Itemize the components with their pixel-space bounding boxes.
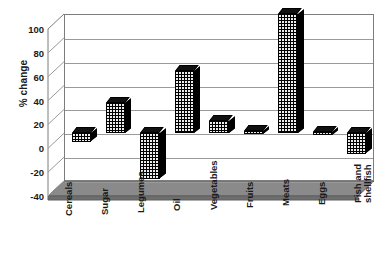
y-axis-tick-label: 20 — [10, 119, 44, 130]
bar-front-face — [209, 121, 228, 133]
bar-series — [64, 14, 374, 181]
x-axis-tick-label: Meats — [281, 179, 291, 206]
bar[interactable] — [313, 132, 332, 135]
bar[interactable] — [244, 131, 263, 134]
x-axis-tick-label: Sugar — [100, 188, 110, 215]
bar-slot — [133, 14, 167, 181]
bar[interactable] — [347, 133, 366, 153]
bar-slot — [236, 14, 270, 181]
bar-slot — [305, 14, 339, 181]
x-axis-tick-labels: CerealsSugarLegumesOilVegetablesFruitsMe… — [48, 200, 378, 275]
bar-front-face — [106, 103, 125, 133]
bar-side-face — [366, 129, 372, 154]
x-axis-tick-label: Fish and shellfish — [353, 164, 373, 203]
bar-slot — [167, 14, 201, 181]
bar[interactable] — [278, 14, 297, 133]
bar[interactable] — [175, 71, 194, 133]
bar-front-face — [72, 133, 91, 141]
bar-slot — [271, 14, 305, 181]
y-axis-tick-labels: 100806040200-20-40 — [0, 14, 44, 196]
bar-front-face — [278, 14, 297, 133]
x-axis-tick-label: Fruits — [245, 181, 255, 207]
bar-side-face — [160, 129, 166, 179]
y-axis-tick-label: 60 — [10, 71, 44, 82]
bar-front-face — [313, 132, 332, 135]
y-axis-tick-label: -20 — [10, 167, 44, 178]
y-axis-tick-label: 100 — [10, 24, 44, 35]
x-axis-tick-label: Oil — [172, 198, 182, 211]
bar[interactable] — [209, 121, 228, 133]
y-axis-tick-label: -40 — [10, 191, 44, 202]
bar-front-face — [347, 133, 366, 153]
bar-front-face — [244, 131, 263, 134]
y-axis-tick-label: 40 — [10, 95, 44, 106]
bar-side-face — [125, 99, 131, 134]
x-axis-tick-label: Legumes — [136, 171, 146, 213]
bar-side-face — [298, 9, 304, 133]
bar-slot — [202, 14, 236, 181]
x-axis-tick-label: Vegetables — [209, 160, 219, 210]
x-axis-tick-label: Cereals — [64, 182, 74, 216]
bar-slot — [64, 14, 98, 181]
y-axis-tick-label: 0 — [10, 143, 44, 154]
x-axis-tick-label: Eggs — [317, 181, 327, 204]
y-axis-tick-label: 80 — [10, 47, 44, 58]
bar[interactable] — [106, 103, 125, 133]
bar-side-face — [194, 67, 200, 134]
chart-container: % change 100806040200-20-40 — [0, 0, 389, 275]
bar-slot — [340, 14, 374, 181]
bar-front-face — [175, 71, 194, 133]
bar[interactable] — [72, 133, 91, 141]
bar-slot — [98, 14, 132, 181]
